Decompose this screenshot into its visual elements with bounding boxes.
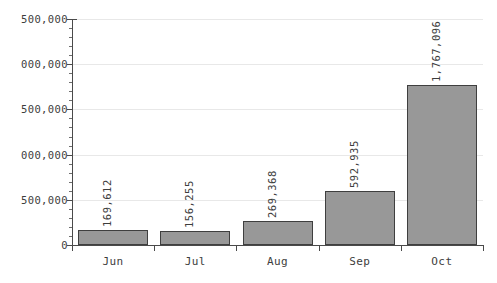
bar: 156,255	[160, 231, 230, 245]
y-axis-tick-label: 500,000	[21, 13, 68, 25]
y-axis-top-cap	[72, 19, 77, 20]
x-axis-category-label: Oct	[431, 255, 452, 268]
y-axis-tick-label: 000,000	[21, 58, 68, 70]
x-tick	[483, 246, 484, 251]
x-tick	[72, 246, 73, 251]
x-axis-category-label: Jun	[103, 255, 124, 268]
y-axis-tick-label: 500,000	[21, 194, 68, 206]
x-tick	[236, 246, 237, 251]
bar: 169,612	[78, 230, 148, 245]
x-tick	[154, 246, 155, 251]
gridline	[72, 19, 483, 20]
y-axis-tick-label: 0	[61, 239, 68, 251]
x-axis-category-label: Sep	[349, 255, 370, 268]
bar-value-label: 156,255	[183, 180, 195, 228]
x-tick	[401, 246, 402, 251]
bar-value-label: 269,368	[266, 170, 278, 218]
bar: 592,935	[325, 191, 395, 245]
plot-area: 169,612156,255269,368592,9351,767,096	[72, 19, 483, 245]
x-axis-category-label: Jul	[185, 255, 206, 268]
y-axis-tick-label: 500,000	[21, 103, 68, 115]
gridline	[72, 64, 483, 65]
bar-value-label: 592,935	[348, 141, 360, 189]
x-axis-line	[72, 245, 484, 246]
y-axis-line	[72, 19, 73, 246]
bar-value-label: 169,612	[101, 179, 113, 227]
bar: 269,368	[243, 221, 313, 245]
bar-value-label: 1,767,096	[430, 21, 442, 82]
x-axis-category-label: Aug	[267, 255, 288, 268]
x-tick	[319, 246, 320, 251]
y-axis-tick-label: 000,000	[21, 149, 68, 161]
bar: 1,767,096	[407, 85, 477, 245]
bar-chart: 169,612156,255269,368592,9351,767,096 05…	[0, 0, 497, 283]
